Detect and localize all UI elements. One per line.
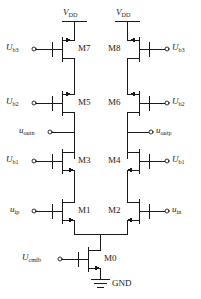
M5-label: M5 [78, 98, 91, 107]
terminal-label-ub2-left[interactable]: Ub2 [6, 97, 19, 106]
M6-symbol [127, 91, 149, 115]
M1-symbol [52, 199, 74, 223]
terminal-label-ub2-right[interactable]: Ub2 [172, 97, 185, 106]
terminal-label-uin[interactable]: uin [172, 205, 181, 214]
M2-symbol [127, 199, 149, 223]
gnd-label: GND [112, 279, 132, 288]
M5-symbol [52, 91, 74, 115]
M3-label: M3 [78, 156, 91, 165]
M4-symbol [127, 149, 149, 173]
vdd-left-label: VDD [63, 8, 77, 17]
terminal-label-uoutp[interactable]: uoutp [156, 126, 172, 135]
M0-symbol [78, 247, 100, 271]
vdd-right-symbol [115, 21, 139, 40]
M7-label: M7 [78, 44, 91, 53]
M2-label: M2 [108, 206, 121, 215]
terminal-label-ub3-right[interactable]: Ub3 [172, 43, 185, 52]
circuit-schematic: VDD VDD GND M7 M8 M5 M6 M3 M4 M1 M2 M0 U… [0, 0, 201, 299]
terminal-label-ub3-left[interactable]: Ub3 [6, 43, 19, 52]
vdd-left-symbol [62, 21, 86, 40]
M1-label: M1 [78, 206, 91, 215]
terminal-label-uoutn[interactable]: uoutn [19, 126, 35, 135]
M3-symbol [52, 149, 74, 173]
terminal-label-ub1-left[interactable]: Ub1 [6, 155, 19, 164]
M8-symbol [127, 37, 149, 61]
M4-label: M4 [108, 156, 121, 165]
M6-label: M6 [108, 98, 121, 107]
ground-symbol [91, 279, 109, 287]
M0-label: M0 [104, 254, 117, 263]
terminal-label-uip[interactable]: uip [10, 205, 19, 214]
terminal-label-ucmfb[interactable]: Ucmfb [22, 253, 41, 262]
M8-label: M8 [108, 44, 121, 53]
vdd-right-label: VDD [116, 8, 130, 17]
M7-symbol [52, 37, 74, 61]
terminal-label-ub1-right[interactable]: Ub1 [172, 155, 185, 164]
